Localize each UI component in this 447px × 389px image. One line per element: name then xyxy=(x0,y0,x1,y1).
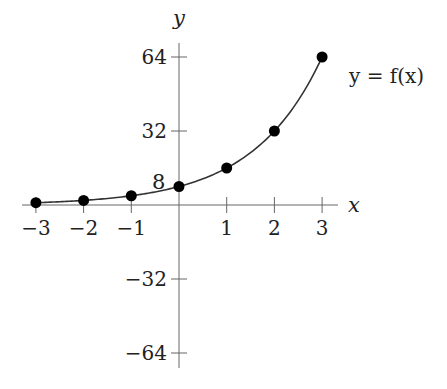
annotation-8: 8 xyxy=(152,170,165,194)
data-point xyxy=(78,195,89,206)
y-tick-label: 64 xyxy=(142,45,167,69)
axes xyxy=(22,43,338,368)
data-point xyxy=(30,197,41,208)
x-tick-label: 3 xyxy=(316,216,329,240)
data-point xyxy=(269,126,280,137)
x-tick-label: 2 xyxy=(268,216,281,240)
x-tick-label: 1 xyxy=(220,216,233,240)
x-axis-label: x xyxy=(348,193,360,217)
x-tick-label: −3 xyxy=(21,216,50,240)
x-tick-label: −2 xyxy=(69,216,98,240)
curve-label: y = f(x) xyxy=(348,64,424,88)
data-point xyxy=(221,163,232,174)
y-tick-label: −32 xyxy=(125,267,167,291)
data-point xyxy=(126,190,137,201)
function-plot: −3−2−11236432−32−64 x y y = f(x) 8 xyxy=(0,0,447,389)
data-point xyxy=(174,181,185,192)
y-tick-label: 32 xyxy=(142,119,167,143)
y-tick-label: −64 xyxy=(125,341,167,365)
x-tick-label: −1 xyxy=(117,216,146,240)
y-axis-label: y xyxy=(172,6,186,30)
data-point xyxy=(317,52,328,63)
